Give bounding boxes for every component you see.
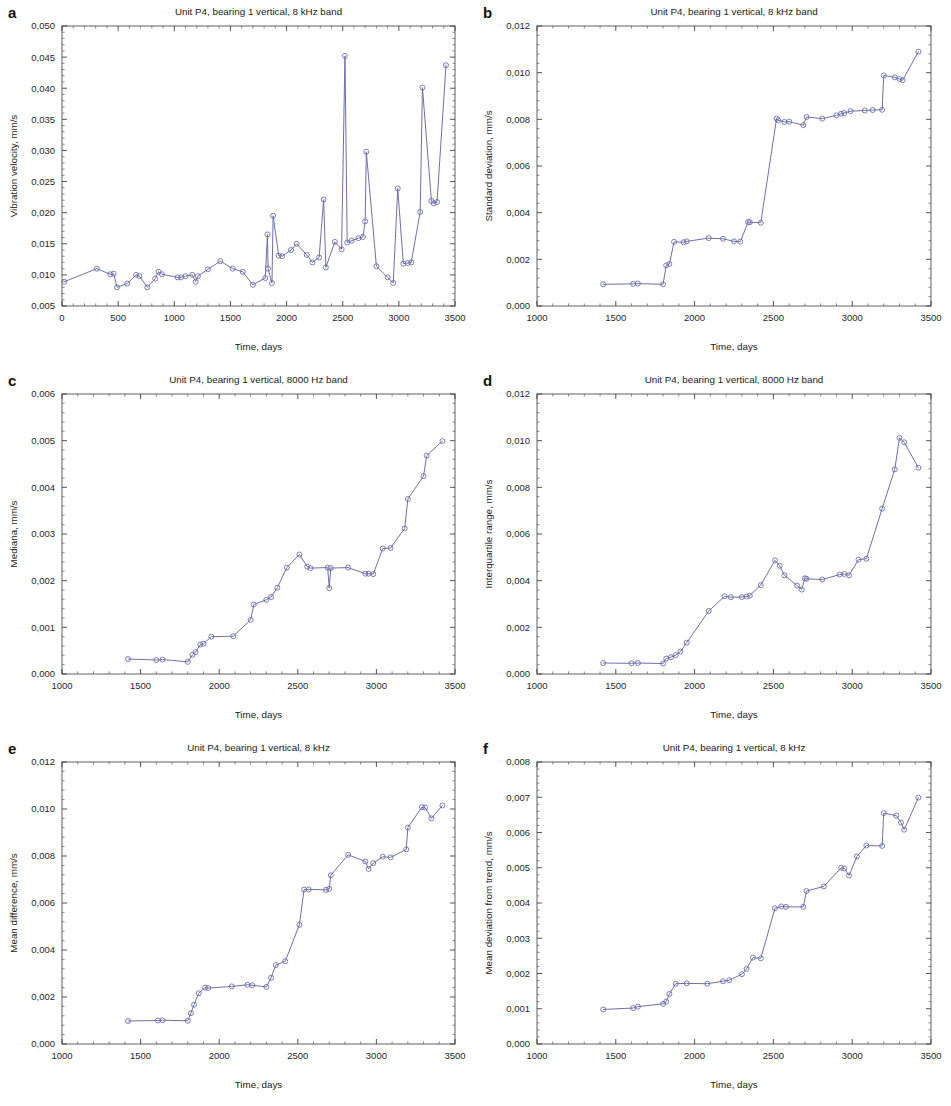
x-tick-label: 1000 [51,1050,72,1061]
plot-frame [62,394,455,674]
multi-panel-figure: aUnit P4, bearing 1 vertical, 8 kHz band… [0,0,951,1106]
y-tick-label: 0,012 [506,20,530,31]
x-tick-label: 3000 [388,312,409,323]
data-series-line [603,798,918,1010]
plot-frame [62,26,455,306]
x-tick-label: 3000 [842,680,863,691]
y-tick-label: 0,015 [31,238,55,249]
x-tick-label: 2500 [332,312,353,323]
y-tick-label: 0,001 [31,622,55,633]
y-tick-label: 0,008 [506,114,530,125]
y-tick-label: 0,010 [506,67,530,78]
plot-title: Unit P4, bearing 1 vertical, 8 kHz band [175,6,342,17]
y-tick-label: 0,000 [506,300,530,311]
y-tick-label: 0,035 [31,114,55,125]
y-tick-label: 0,002 [506,968,530,979]
y-tick-label: 0,005 [506,862,530,873]
plot-b: Unit P4, bearing 1 vertical, 8 kHz band0… [475,0,951,368]
y-tick-label: 0,004 [506,897,530,908]
plot-f: Unit P4, bearing 1 vertical, 8 kHz0,0000… [475,736,951,1106]
x-tick-label: 3500 [920,312,941,323]
x-tick-label: 1000 [526,1050,547,1061]
y-tick-label: 0,008 [31,850,55,861]
y-tick-label: 0,008 [506,482,530,493]
x-tick-label: 1000 [526,680,547,691]
x-tick-label: 1500 [605,1050,626,1061]
x-tick-label: 0 [59,312,64,323]
x-tick-label: 1000 [164,312,185,323]
chart-panel-a: aUnit P4, bearing 1 vertical, 8 kHz band… [0,0,475,368]
y-tick-label: 0,005 [31,435,55,446]
chart-panel-c: cUnit P4, bearing 1 vertical, 8000 Hz ba… [0,368,475,736]
y-axis-label: Mediana, mm/s [8,500,19,567]
y-tick-label: 0,006 [506,160,530,171]
y-tick-label: 0,000 [31,1038,55,1049]
y-tick-label: 0,000 [506,1038,530,1049]
y-tick-label: 0,003 [31,528,55,539]
chart-panel-e: eUnit P4, bearing 1 vertical, 8 kHz0,000… [0,736,475,1106]
y-tick-label: 0,012 [506,388,530,399]
plot-d: Unit P4, bearing 1 vertical, 8000 Hz ban… [475,368,951,736]
x-tick-label: 2000 [276,312,297,323]
x-tick-label: 3500 [920,680,941,691]
panel-letter-d: d [483,372,492,389]
x-tick-label: 3500 [920,1050,941,1061]
plot-frame [537,26,931,306]
y-tick-label: 0,010 [31,803,55,814]
x-tick-label: 1500 [130,680,151,691]
chart-panel-f: fUnit P4, bearing 1 vertical, 8 kHz0,000… [475,736,951,1106]
x-tick-label: 1000 [51,680,72,691]
x-tick-label: 500 [110,312,126,323]
x-tick-label: 2500 [287,680,308,691]
x-tick-label: 3500 [444,1050,465,1061]
y-tick-label: 0,005 [31,300,55,311]
y-tick-label: 0,040 [31,83,55,94]
data-series-line [128,441,442,662]
x-tick-label: 3000 [366,1050,387,1061]
x-tick-label: 2000 [684,1050,705,1061]
y-tick-label: 0,002 [506,622,530,633]
plot-title: Unit P4, bearing 1 vertical, 8 kHz band [650,6,817,17]
x-axis-label: Time, days [710,1079,758,1090]
y-tick-label: 0,001 [506,1003,530,1014]
y-tick-label: 0,050 [31,20,55,31]
y-tick-label: 0,004 [31,944,55,955]
plot-frame [537,394,931,674]
x-tick-label: 1500 [220,312,241,323]
plot-title: Unit P4, bearing 1 vertical, 8 kHz [187,742,330,753]
y-tick-label: 0,030 [31,145,55,156]
plot-c: Unit P4, bearing 1 vertical, 8000 Hz ban… [0,368,475,736]
panel-letter-e: e [8,740,16,757]
y-axis-label: Vibration velocity, mm/s [8,115,19,218]
x-tick-label: 2000 [209,1050,230,1061]
y-tick-label: 0,020 [31,207,55,218]
y-axis-label: Standard deviation, mm/s [483,110,494,221]
y-tick-label: 0,004 [31,482,55,493]
panel-letter-a: a [8,4,16,21]
y-tick-label: 0,045 [31,52,55,63]
x-axis-label: Time, days [235,709,283,720]
chart-panel-b: bUnit P4, bearing 1 vertical, 8 kHz band… [475,0,951,368]
x-axis-label: Time, days [710,341,758,352]
x-tick-label: 3000 [366,680,387,691]
y-tick-label: 0,025 [31,176,55,187]
data-series-line [603,52,918,285]
x-tick-label: 1500 [605,680,626,691]
y-tick-label: 0,006 [31,897,55,908]
x-tick-label: 1500 [130,1050,151,1061]
x-tick-label: 3500 [444,680,465,691]
y-tick-label: 0,003 [506,933,530,944]
panel-letter-c: c [8,372,16,389]
y-tick-label: 0,004 [506,207,530,218]
data-series-line [128,805,442,1020]
y-tick-label: 0,004 [506,575,530,586]
x-tick-label: 1000 [526,312,547,323]
chart-panel-d: dUnit P4, bearing 1 vertical, 8000 Hz ba… [475,368,951,736]
y-tick-label: 0,002 [31,991,55,1002]
plot-a: Unit P4, bearing 1 vertical, 8 kHz band0… [0,0,475,368]
x-tick-label: 3000 [842,1050,863,1061]
x-tick-label: 2500 [763,312,784,323]
plot-frame [537,762,931,1044]
data-series-line [64,56,446,287]
data-series-line [603,438,918,664]
